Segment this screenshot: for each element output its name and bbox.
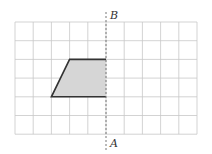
- label-A: A: [110, 138, 118, 149]
- reflection-diagram: [0, 0, 212, 154]
- label-B: B: [110, 10, 118, 21]
